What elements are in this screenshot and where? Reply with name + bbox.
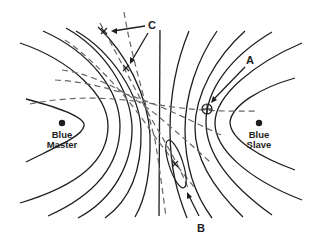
callout-label-c: C [148, 19, 156, 31]
station-slave: Blue Slave [247, 120, 272, 150]
callout-label-b: B [197, 222, 205, 234]
callout-b: B [187, 192, 205, 234]
callout-c: C [111, 19, 156, 64]
callout-label-a: A [246, 54, 254, 66]
center-line [159, 30, 160, 216]
slave-station-dot-icon [256, 120, 262, 126]
master-station-dot-icon [59, 120, 65, 126]
hyperbolic-navigation-diagram: C A B Blue Master Blue Slave [0, 0, 317, 241]
slave-hyperbola-family [170, 31, 302, 218]
station-master: Blue Master [47, 120, 78, 150]
slave-label-line2: Slave [247, 139, 272, 150]
callout-a: A [211, 54, 254, 103]
fix-a [202, 104, 212, 114]
master-label-line2: Master [47, 139, 78, 150]
